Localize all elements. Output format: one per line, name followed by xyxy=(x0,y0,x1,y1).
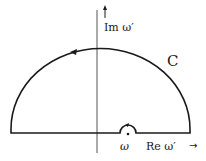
contour-diagram: Im ω′ C ω Re ω′ → xyxy=(0,0,206,161)
contour-label: C xyxy=(167,54,178,69)
imaginary-axis-label: Im ω′ xyxy=(104,22,134,33)
contour-direction-arrow-icon xyxy=(70,49,77,55)
pole-label: ω xyxy=(120,141,129,152)
indent-direction-arrow-icon xyxy=(125,123,129,127)
contour-c xyxy=(11,49,190,133)
contour-svg xyxy=(0,0,206,161)
real-axis-arrow-icon: → xyxy=(189,140,197,151)
real-axis-label: Re ω′ xyxy=(146,141,176,152)
pole-point xyxy=(127,133,130,136)
